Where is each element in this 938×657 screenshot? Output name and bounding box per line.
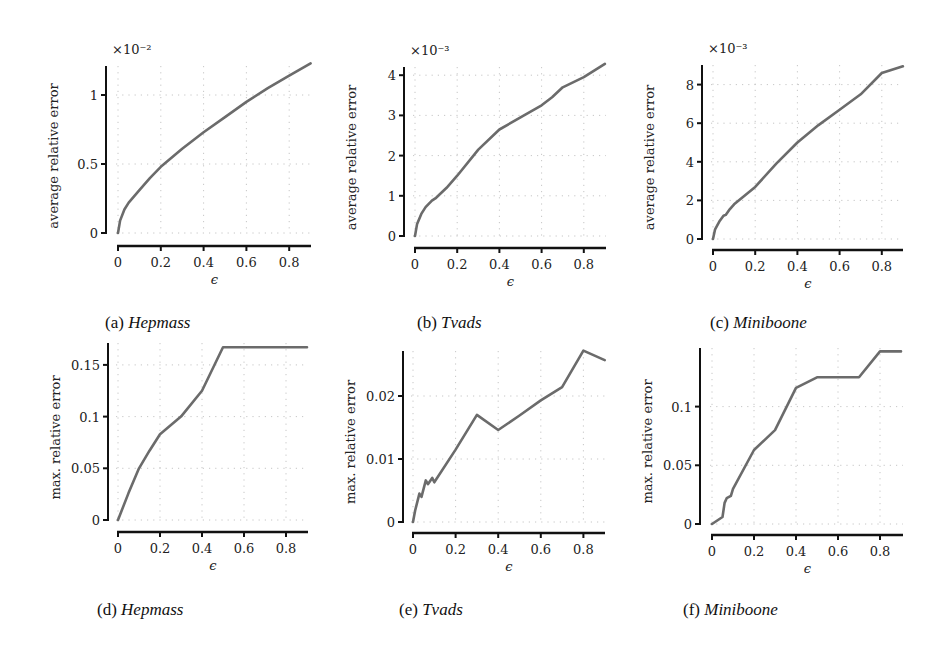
y-axis-label: max. relative error [48,375,63,500]
caption-d: (d) Hepmass [97,600,183,620]
x-axis-label: ϵ [804,276,812,291]
y-tick-label: 0.01 [366,452,395,467]
x-tick-label: 0 [114,255,122,270]
caption-a: (a) Hepmass [105,313,190,333]
y-tick-label: 4 [388,68,396,83]
panel-f: 00.050.100.20.40.60.8ϵmax. relative erro… [640,348,903,576]
caption-dataset: Hepmass [128,313,190,332]
data-line [413,351,605,522]
panel-e: 00.010.0200.20.40.60.8ϵmax. relative err… [343,351,605,574]
y-tick-label: 1 [90,88,98,103]
x-tick-label: 0 [409,542,417,557]
panel-b: 0123400.20.40.60.8ϵaverage relative erro… [344,43,606,289]
x-tick-label: 0.4 [786,544,807,559]
y-tick-label: 0 [92,513,100,528]
x-tick-label: 0.6 [234,541,255,556]
x-tick-label: 0.4 [193,255,214,270]
caption-b: (b) Tvads [417,313,482,333]
y-multiplier-label: ×10⁻³ [410,43,450,58]
x-tick-label: 0.8 [573,257,594,272]
y-tick-label: 1 [388,189,396,204]
y-tick-label: 3 [388,108,396,123]
y-axis-label: average relative error [46,83,61,229]
y-tick-label: 0.5 [77,157,98,172]
y-tick-label: 0.05 [71,461,100,476]
data-line [118,347,307,520]
caption-dataset: Miniboone [733,313,807,332]
x-tick-label: 0.4 [488,542,509,557]
caption-dataset: Hepmass [121,600,183,619]
caption-dataset: Miniboone [704,600,778,619]
y-tick-label: 0.02 [366,389,395,404]
y-multiplier-label: ×10⁻² [112,42,152,57]
caption-letter: (f) [683,600,700,619]
y-axis-label: average relative error [642,84,657,230]
x-tick-label: 0.6 [236,255,257,270]
x-tick-label: 0 [709,259,717,274]
y-multiplier-label: ×10⁻³ [708,41,748,56]
caption-f: (f) Miniboone [683,600,778,620]
x-axis-label: ϵ [507,274,515,289]
x-tick-label: 0.2 [745,259,766,274]
x-tick-label: 0.2 [150,541,171,556]
x-tick-label: 0.8 [573,542,594,557]
x-axis-label: ϵ [211,272,219,287]
y-tick-label: 0.05 [663,458,692,473]
caption-letter: (d) [97,600,117,619]
x-tick-label: 0.4 [787,259,808,274]
data-line [415,64,605,236]
caption-e: (e) Tvads [399,600,463,620]
x-tick-label: 0.4 [489,257,510,272]
x-tick-label: 0.2 [744,544,765,559]
x-axis-label: ϵ [804,561,812,576]
y-tick-label: 0.15 [71,358,100,373]
x-tick-label: 0.4 [192,541,213,556]
x-tick-label: 0.6 [829,259,850,274]
y-tick-label: 0 [387,515,395,530]
x-tick-label: 0 [708,544,716,559]
y-tick-label: 2 [686,193,694,208]
x-tick-label: 0 [411,257,419,272]
y-tick-label: 0.1 [79,410,100,425]
y-axis-label: max. relative error [343,379,358,504]
caption-letter: (a) [105,313,124,332]
data-line [712,351,901,524]
x-tick-label: 0.8 [279,255,300,270]
y-tick-label: 4 [686,155,694,170]
y-tick-label: 2 [388,149,396,164]
y-axis-label: max. relative error [640,379,655,504]
y-tick-label: 0 [90,226,98,241]
caption-dataset: Tvads [422,600,463,619]
panel-d: 00.050.10.1500.20.40.60.8ϵmax. relative … [48,343,308,573]
y-tick-label: 0 [686,232,694,247]
caption-letter: (b) [417,313,437,332]
x-tick-label: 0.2 [445,542,466,557]
y-axis-label: average relative error [344,84,359,230]
x-tick-label: 0.6 [531,257,552,272]
panel-a: 00.5100.20.40.60.8ϵaverage relative erro… [46,42,311,287]
data-line [118,63,311,233]
x-tick-label: 0.6 [828,544,849,559]
y-tick-label: 0.1 [671,400,692,415]
caption-letter: (c) [710,313,729,332]
x-axis-label: ϵ [505,559,513,574]
y-tick-label: 6 [686,116,694,131]
data-line [713,66,903,239]
x-tick-label: 0.8 [276,541,297,556]
caption-letter: (e) [399,600,418,619]
caption-dataset: Tvads [441,313,482,332]
y-tick-label: 0 [684,517,692,532]
x-tick-label: 0.8 [871,259,892,274]
x-axis-label: ϵ [209,558,217,573]
x-tick-label: 0.2 [447,257,468,272]
y-tick-label: 8 [686,78,694,93]
x-tick-label: 0.6 [530,542,551,557]
x-tick-label: 0.2 [150,255,171,270]
y-tick-label: 0 [388,229,396,244]
caption-c: (c) Miniboone [710,313,807,333]
x-tick-label: 0 [114,541,122,556]
x-tick-label: 0.8 [870,544,891,559]
panel-c: 0246800.20.40.60.8ϵaverage relative erro… [642,41,903,291]
